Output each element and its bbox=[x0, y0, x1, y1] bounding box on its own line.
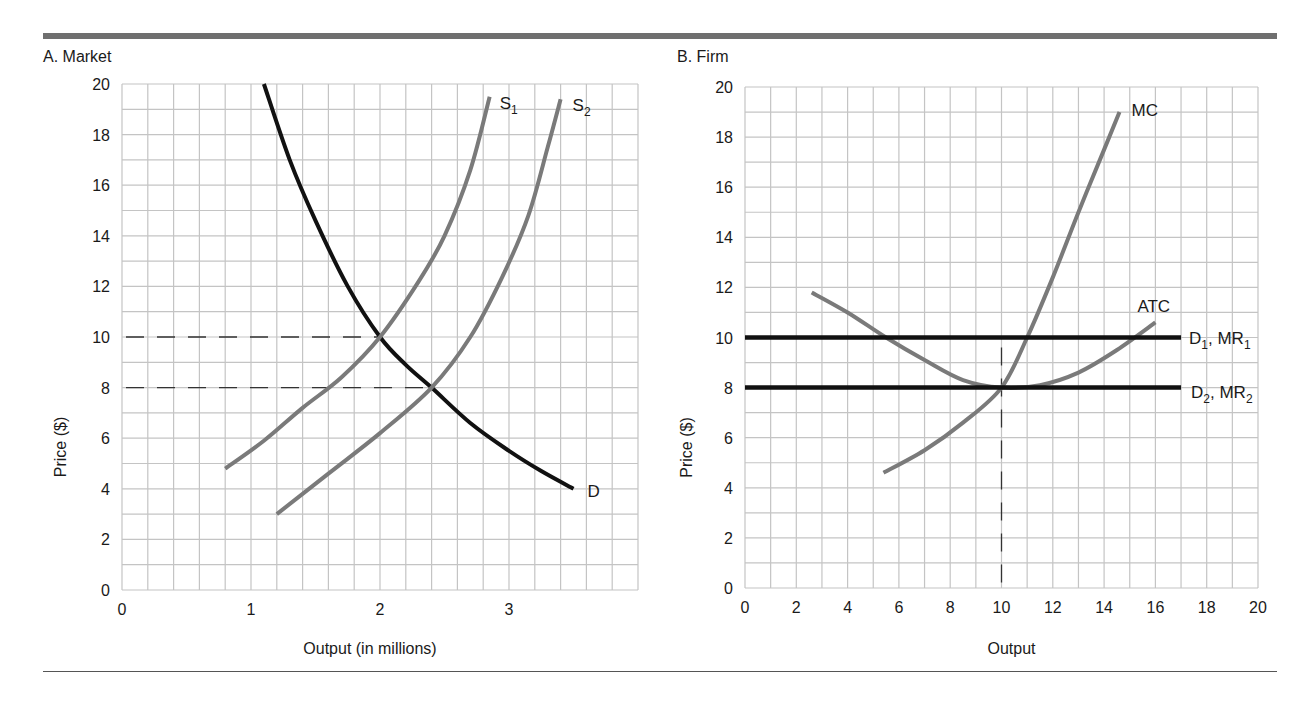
label-main: S bbox=[573, 96, 584, 115]
y-tick-label: 16 bbox=[715, 179, 733, 196]
label-main: D bbox=[1189, 329, 1201, 348]
x-tick-label: 3 bbox=[505, 601, 514, 618]
figure-canvas: 024681012141618200123Output (in millions… bbox=[0, 0, 1309, 703]
y-tick-label: 10 bbox=[715, 330, 733, 347]
curve-label-atc: ATC bbox=[1137, 297, 1170, 316]
label-main: D bbox=[1191, 383, 1203, 402]
curve-label-d1-mr1: D1, MR1 bbox=[1189, 329, 1251, 352]
y-tick-label: 18 bbox=[92, 127, 110, 144]
curve-label-d: D bbox=[588, 482, 600, 501]
label-subscript: 1 bbox=[511, 103, 518, 117]
label-main: ATC bbox=[1137, 297, 1170, 316]
x-tick-label: 1 bbox=[247, 601, 256, 618]
y-tick-label: 0 bbox=[101, 582, 110, 599]
x-tick-label: 14 bbox=[1095, 599, 1113, 616]
label-secondary: , MR bbox=[1208, 329, 1244, 348]
y-tick-label: 2 bbox=[724, 530, 733, 547]
x-tick-label: 6 bbox=[894, 599, 903, 616]
curve-label-mc: MC bbox=[1131, 101, 1157, 120]
x-tick-label: 18 bbox=[1198, 599, 1216, 616]
y-tick-label: 18 bbox=[715, 129, 733, 146]
label-subscript: 2 bbox=[584, 105, 591, 119]
y-tick-label: 20 bbox=[92, 76, 110, 93]
label-main: MC bbox=[1131, 101, 1157, 120]
panel-a-market-chart: 024681012141618200123Output (in millions… bbox=[52, 76, 638, 657]
y-tick-label: 10 bbox=[92, 329, 110, 346]
x-tick-label: 12 bbox=[1044, 599, 1062, 616]
curve-label-s2: S2 bbox=[573, 96, 591, 119]
x-tick-label: 16 bbox=[1147, 599, 1165, 616]
y-tick-label: 6 bbox=[724, 430, 733, 447]
panel-b-firm-chart: 0246810121416182002468101214161820Output… bbox=[678, 79, 1267, 657]
x-axis-label: Output (in millions) bbox=[303, 640, 436, 657]
y-tick-label: 14 bbox=[715, 229, 733, 246]
curve-s2 bbox=[277, 99, 561, 514]
curve-label-d2-mr2: D2, MR2 bbox=[1191, 383, 1253, 406]
y-tick-label: 14 bbox=[92, 228, 110, 245]
y-tick-label: 6 bbox=[101, 430, 110, 447]
y-tick-label: 20 bbox=[715, 79, 733, 96]
y-axis-label: Price ($) bbox=[678, 417, 695, 477]
x-axis-label: Output bbox=[987, 640, 1036, 657]
y-tick-label: 2 bbox=[101, 531, 110, 548]
x-tick-label: 20 bbox=[1249, 599, 1267, 616]
label-secondary: , MR bbox=[1210, 383, 1246, 402]
label-subscript: 2 bbox=[1246, 392, 1253, 406]
y-tick-label: 16 bbox=[92, 177, 110, 194]
y-axis-label: Price ($) bbox=[52, 417, 69, 477]
y-tick-label: 12 bbox=[92, 278, 110, 295]
x-tick-label: 8 bbox=[946, 599, 955, 616]
y-tick-label: 12 bbox=[715, 279, 733, 296]
x-tick-label: 2 bbox=[376, 601, 385, 618]
y-tick-label: 8 bbox=[101, 380, 110, 397]
x-tick-label: 0 bbox=[118, 601, 127, 618]
x-tick-label: 4 bbox=[843, 599, 852, 616]
x-tick-label: 0 bbox=[741, 599, 750, 616]
label-subscript: 1 bbox=[1244, 338, 1251, 352]
label-main: S bbox=[500, 94, 511, 113]
y-tick-label: 0 bbox=[724, 580, 733, 597]
label-main: D bbox=[588, 482, 600, 501]
y-tick-label: 8 bbox=[724, 380, 733, 397]
y-tick-label: 4 bbox=[724, 480, 733, 497]
x-tick-label: 2 bbox=[792, 599, 801, 616]
x-tick-label: 10 bbox=[993, 599, 1011, 616]
y-tick-label: 4 bbox=[101, 481, 110, 498]
